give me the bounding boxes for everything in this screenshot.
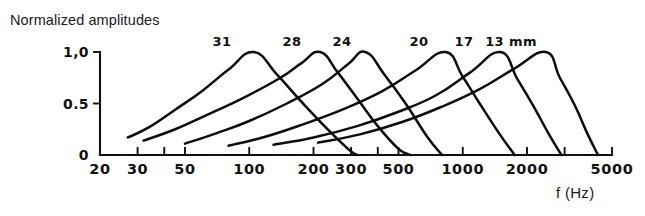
x-tick-label: 30 [127, 161, 148, 177]
x-axis: 203050100200300500100020005000 [89, 147, 633, 177]
x-tick-label: 1000 [441, 161, 484, 177]
figure-title: Normalized amplitudes [10, 12, 160, 28]
response-curves [128, 52, 598, 155]
x-tick-label: 20 [89, 161, 110, 177]
curve-label: 24 [333, 34, 352, 49]
y-tick-label: 1,0 [63, 44, 89, 60]
response-curve [128, 52, 357, 155]
plot-canvas: Normalized amplitudes 00.51,0 2030501002… [0, 0, 645, 216]
amplitude-response-figure: Normalized amplitudes 00.51,0 2030501002… [0, 0, 645, 216]
curve-labels: 312824201713 mm [213, 34, 537, 49]
x-tick-label: 300 [335, 161, 367, 177]
curve-label: 13 mm [485, 34, 537, 49]
curve-label: 17 [455, 34, 474, 49]
x-tick-label: 100 [233, 161, 265, 177]
y-tick-label: 0 [79, 147, 89, 163]
x-tick-label: 200 [297, 161, 329, 177]
x-tick-label: 50 [174, 161, 195, 177]
curve-label: 20 [410, 34, 429, 49]
response-curve [185, 52, 442, 155]
x-tick-label: 5000 [591, 161, 634, 177]
y-tick-label: 0.5 [63, 96, 89, 112]
y-axis: 00.51,0 [63, 44, 100, 163]
curve-label: 28 [283, 34, 302, 49]
x-axis-caption: f (Hz) [556, 184, 594, 201]
x-tick-label: 500 [382, 161, 414, 177]
x-tick-label: 2000 [506, 161, 549, 177]
curve-label: 31 [213, 34, 232, 49]
